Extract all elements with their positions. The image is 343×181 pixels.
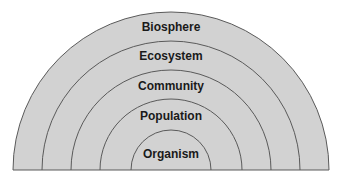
label-community: Community [138, 79, 204, 93]
label-ecosystem: Ecosystem [139, 49, 202, 63]
label-organism: Organism [143, 147, 199, 161]
ecology-levels-diagram: Biosphere Ecosystem Community Population… [0, 0, 343, 181]
label-biosphere: Biosphere [142, 20, 201, 34]
label-population: Population [140, 109, 202, 123]
